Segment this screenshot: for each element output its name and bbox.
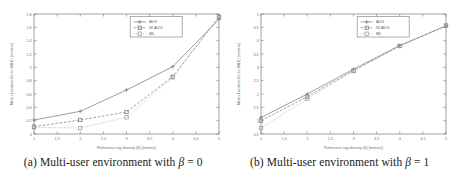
x-tick-label: 2.5 bbox=[327, 136, 332, 141]
x-tick-label: 4.5 bbox=[193, 136, 198, 141]
caption-a: (a) Multi-user environment with β = 0 bbox=[0, 156, 227, 168]
y-tick-label: 3.5 bbox=[253, 52, 258, 57]
x-tick-label: 3.5 bbox=[147, 136, 152, 141]
caption-b: (b) Multi-user environment with β = 1 bbox=[227, 156, 453, 168]
caption-a-suffix: = 0 bbox=[184, 156, 202, 168]
x-tick-label: 2 bbox=[79, 136, 81, 141]
x-tick-label: 2 bbox=[306, 136, 308, 141]
y-tick-label: 1.4 bbox=[26, 38, 32, 43]
series-line-ml bbox=[34, 17, 219, 128]
x-tick-label: 1 bbox=[33, 136, 35, 141]
chart-a-svg: 11.522.533.544.5500.20.40.60.811.21.41.6… bbox=[0, 0, 227, 158]
legend-label-ml: ML bbox=[149, 31, 155, 36]
x-tick-label: 1.5 bbox=[281, 136, 286, 141]
x-tick-label: 3 bbox=[352, 136, 354, 141]
y-axis-title: Mean Location Error (MLE) [meters] bbox=[9, 43, 14, 105]
y-tick-label: 4.5 bbox=[253, 25, 258, 30]
y-tick-label: 4 bbox=[256, 38, 259, 43]
series-line-avg bbox=[34, 19, 219, 120]
x-tick-label: 1.5 bbox=[54, 136, 59, 141]
y-axis-title: Mean Location Error (MLE) [meters] bbox=[236, 43, 241, 105]
x-axis-title: Reference tag density (δ) [meters] bbox=[97, 145, 156, 150]
y-tick-label: 2 bbox=[256, 92, 258, 97]
legend-label-avg: AVG bbox=[149, 19, 157, 24]
x-tick-label: 3 bbox=[125, 136, 127, 141]
x-tick-label: 4.5 bbox=[420, 136, 425, 141]
plot-b: 11.522.533.544.550.511.522.533.544.55Ref… bbox=[227, 0, 453, 158]
series-line-w-avg bbox=[261, 26, 446, 121]
y-tick-label: 1.2 bbox=[26, 52, 31, 57]
y-tick-label: 0.5 bbox=[253, 132, 258, 137]
chart-b-svg: 11.522.533.544.550.511.522.533.544.55Ref… bbox=[227, 0, 453, 158]
panel-a: 11.522.533.544.5500.20.40.60.811.21.41.6… bbox=[0, 0, 227, 182]
y-tick-label: 0.8 bbox=[26, 78, 31, 83]
y-tick-label: 3 bbox=[256, 65, 258, 70]
y-tick-label: 1 bbox=[256, 118, 258, 123]
caption-b-prefix: (b) Multi-user environment with bbox=[250, 156, 405, 168]
caption-a-prefix: (a) Multi-user environment with bbox=[24, 156, 179, 168]
y-tick-label: 1.5 bbox=[253, 105, 258, 110]
legend-label-w-avg: W-AVG bbox=[149, 25, 163, 30]
y-tick-label: 1.8 bbox=[26, 12, 31, 17]
x-tick-label: 2.5 bbox=[101, 136, 106, 141]
y-tick-label: 1.6 bbox=[26, 25, 31, 30]
x-tick-label: 1 bbox=[259, 136, 261, 141]
x-axis-title: Reference tag density (δ) [meters] bbox=[324, 145, 383, 150]
y-tick-label: 5 bbox=[256, 12, 258, 17]
x-tick-label: 5 bbox=[444, 136, 446, 141]
figure-two-panel: 11.522.533.544.5500.20.40.60.811.21.41.6… bbox=[0, 0, 453, 182]
x-tick-label: 4 bbox=[398, 136, 401, 141]
y-tick-label: 0.4 bbox=[26, 105, 32, 110]
y-tick-label: 2.5 bbox=[253, 78, 258, 83]
x-tick-label: 4 bbox=[172, 136, 175, 141]
legend-label-avg: AVG bbox=[375, 19, 383, 24]
series-line-ml bbox=[261, 25, 446, 128]
series-line-avg bbox=[261, 26, 446, 117]
caption-b-suffix: = 1 bbox=[411, 156, 429, 168]
plot-a: 11.522.533.544.5500.20.40.60.811.21.41.6… bbox=[0, 0, 227, 158]
y-tick-label: 0.6 bbox=[26, 92, 31, 97]
y-tick-label: 1 bbox=[30, 65, 32, 70]
panel-b: 11.522.533.544.550.511.522.533.544.55Ref… bbox=[227, 0, 453, 182]
legend-label-ml: ML bbox=[375, 31, 381, 36]
y-tick-label: 0.2 bbox=[26, 118, 31, 123]
legend-label-w-avg: W-AVG bbox=[375, 25, 389, 30]
x-tick-label: 5 bbox=[218, 136, 220, 141]
x-tick-label: 3.5 bbox=[373, 136, 378, 141]
plot-frame bbox=[261, 14, 446, 134]
